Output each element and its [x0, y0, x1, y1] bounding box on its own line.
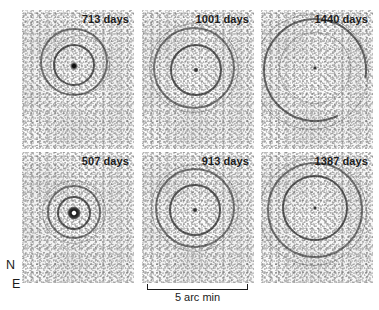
central-source [313, 66, 317, 70]
image-panel-figure: 713 days 1001 days 1440 days 507 days [0, 0, 379, 310]
panel-label-913: 913 days [202, 155, 249, 167]
central-source [194, 68, 199, 73]
compass-east-label: E [12, 277, 20, 291]
central-source [313, 206, 317, 210]
image-panel-713[interactable]: 713 days [22, 10, 134, 149]
compass-north-label: N [6, 258, 15, 272]
central-source [193, 208, 198, 213]
image-panel-1440[interactable]: 1440 days [261, 10, 373, 149]
panel-label-1001: 1001 days [196, 13, 250, 25]
central-source [70, 62, 78, 70]
scale-bar: 5 arc min [147, 284, 248, 306]
image-panel-1387[interactable]: 1387 days [261, 152, 373, 283]
image-panel-1001[interactable]: 1001 days [142, 10, 254, 149]
panel-label-507: 507 days [82, 155, 129, 167]
scale-bar-caption: 5 arc min [147, 291, 248, 303]
scale-bar-line [147, 284, 248, 290]
panel-label-1387: 1387 days [315, 155, 369, 167]
panel-label-713: 713 days [82, 13, 129, 25]
central-source [68, 207, 81, 220]
image-panel-507[interactable]: 507 days [22, 152, 134, 283]
image-panel-913[interactable]: 913 days [142, 152, 254, 283]
panel-label-1440: 1440 days [315, 13, 369, 25]
